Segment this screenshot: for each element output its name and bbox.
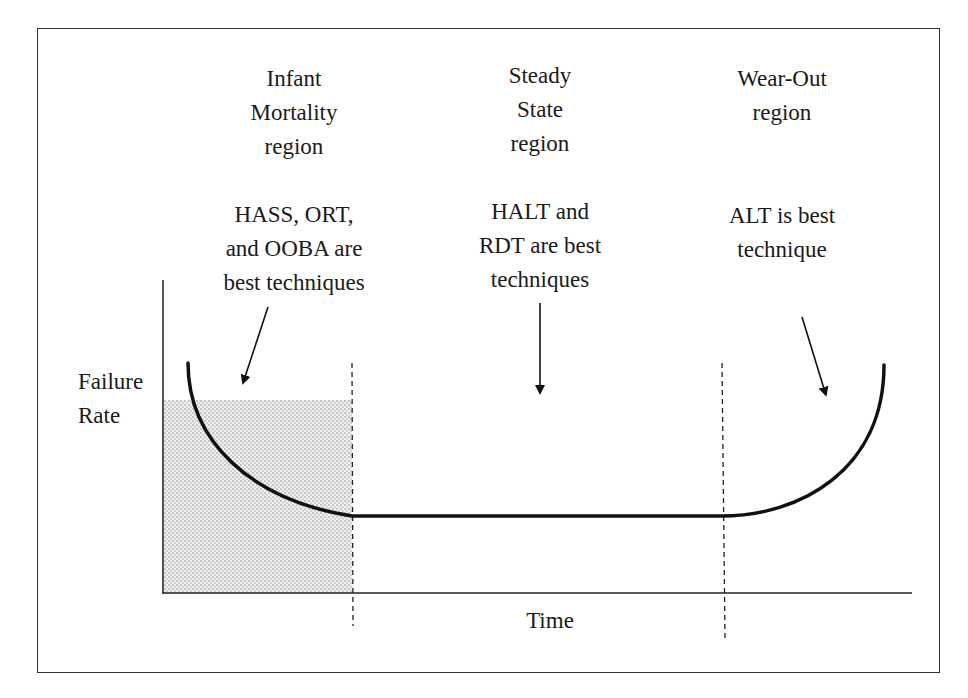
region-title-infant: Infant Mortality region [204,62,384,164]
arrow-wearout [802,317,825,392]
divider-infant-steady [352,363,353,626]
region-title-steady: Steady State region [460,59,620,161]
divider-steady-wearout [722,363,725,638]
arrow-infant [244,307,268,380]
region-technique-steady: HALT and RDT are best techniques [440,195,640,297]
infant-mortality-shading [163,400,352,593]
region-technique-infant: HASS, ORT, and OOBA are best techniques [194,198,394,300]
region-technique-wearout: ALT is best technique [682,199,882,267]
region-title-wearout: Wear-Out region [682,62,882,130]
x-axis-label: Time [500,604,600,638]
y-axis-label: Failure Rate [78,365,164,433]
